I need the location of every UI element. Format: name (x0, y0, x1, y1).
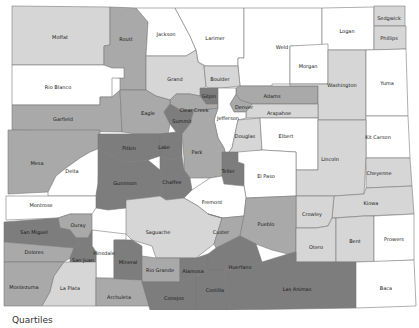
county-label: Washington (327, 82, 356, 89)
county-label: Pueblo (258, 221, 275, 227)
county-grand[interactable] (146, 50, 206, 100)
county-label: San Miguel (20, 229, 48, 236)
county-label: Logan (339, 28, 354, 35)
county-label: Mesa (30, 160, 43, 166)
county-label: Kit Carson (365, 134, 391, 140)
county-label: Conejos (164, 295, 184, 302)
county-label: Park (192, 149, 203, 155)
county-label: Cheyenne (366, 170, 391, 177)
county-label: Archuleta (107, 294, 131, 300)
county-label: Custer (213, 229, 230, 235)
legend-title: Quartiles (12, 315, 53, 325)
county-label: Dolores (25, 249, 44, 255)
county-label: Hinsdale (93, 250, 115, 256)
county-label: Chaffee (162, 179, 181, 185)
county-label: Costilla (206, 287, 224, 293)
county-label: Larimer (205, 35, 225, 41)
county-label: Alamosa (182, 268, 203, 274)
county-label: Summit (172, 118, 191, 124)
county-label: Fremont (202, 199, 223, 205)
county-label: Denver (235, 104, 254, 110)
county-label: Montezuma (9, 284, 38, 290)
county-label: Mineral (119, 259, 137, 265)
county-label: Moffat (52, 34, 68, 40)
county-label: Baca (380, 285, 392, 291)
county-label: Boulder (210, 76, 230, 82)
county-label: Saguache (146, 229, 171, 236)
county-label: Sedgwick (377, 15, 401, 22)
county-label: Lincoln (321, 156, 339, 162)
county-label: Weld (276, 44, 288, 50)
county-label: Yuma (379, 80, 394, 86)
county-label: Eagle (141, 110, 155, 117)
county-label: Jefferson (216, 115, 239, 121)
county-label: Teller (220, 168, 235, 174)
county-label: Douglas (235, 133, 256, 140)
county-label: La Plata (60, 285, 80, 291)
county-label: Adams (263, 93, 280, 99)
colorado-county-map: Moffat Routt Jackson Larimer Weld Logan … (0, 0, 419, 310)
county-label: Otero (309, 244, 323, 250)
county-label: Arapahoe (267, 110, 291, 117)
county-label: Jackson (155, 31, 175, 37)
county-label: Montrose (29, 202, 52, 208)
county-label: Elbert (279, 133, 294, 139)
county-label: Gunnison (113, 180, 137, 186)
county-label: Crowley (302, 211, 322, 218)
county-label: San Juan (72, 257, 94, 263)
county-label: Morgan (299, 63, 318, 70)
county-baca[interactable] (356, 260, 416, 308)
county-label: Pitkin (122, 145, 136, 151)
county-label: Garfield (53, 116, 73, 122)
county-label: Rio Grande (146, 267, 174, 273)
county-label: Routt (119, 36, 132, 42)
county-label: Lake (158, 144, 170, 150)
county-label: Gilpin (202, 93, 216, 100)
county-label: Delta (65, 168, 78, 174)
county-label: Huerfano (228, 264, 251, 270)
county-label: Phillips (380, 35, 398, 42)
county-label: Grand (167, 76, 182, 82)
county-label: El Paso (257, 173, 275, 179)
county-label: Prowers (384, 236, 404, 242)
county-label: Rio Blanco (45, 84, 71, 90)
county-label: Ouray (70, 222, 85, 229)
county-label: Bent (349, 238, 361, 244)
county-label: Kiowa (364, 200, 379, 206)
county-label: Clear Creek (179, 107, 208, 113)
county-label: Las Animas (283, 286, 312, 292)
